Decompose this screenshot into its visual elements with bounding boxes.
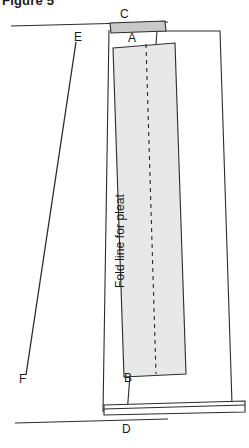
point-label-b: B [124, 371, 132, 385]
figure-container: Figure 5 Fold line for pleat A B C D E F [0, 0, 249, 448]
left-construction-edge [103, 30, 109, 412]
point-label-f: F [19, 372, 26, 386]
top-pleat-band [110, 21, 166, 33]
point-label-c: C [120, 7, 129, 21]
ef-diagonal-line [26, 42, 76, 375]
point-label-d: D [122, 422, 131, 436]
bottom-guide-line [15, 419, 168, 423]
point-label-a: A [128, 31, 136, 45]
point-label-e: E [74, 30, 82, 44]
fold-line-label: Fold line for pleat [113, 194, 127, 288]
